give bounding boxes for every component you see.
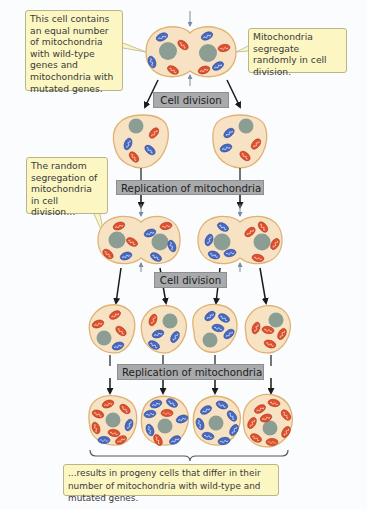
progeny-cell-2 <box>141 396 189 447</box>
parent-cell-dividing <box>146 27 236 77</box>
daughter-cell-right <box>213 115 267 168</box>
callout-text: This cell contains an equal number of mi… <box>30 13 113 94</box>
callout-pointer-right <box>236 46 248 52</box>
callout-equal-mitochondria: This cell contains an equal number of mi… <box>25 10 123 91</box>
division-arrow <box>116 268 121 303</box>
label-text: Cell division <box>160 275 221 286</box>
callout-pointer-left <box>123 43 146 52</box>
callout-progeny-result: ...results in progeny cells that differ … <box>63 464 279 496</box>
callout-text: Mitochondria segregate randomly in cell … <box>253 31 327 77</box>
label-replication-1: Replication of mitochondria <box>116 180 264 195</box>
progeny-cell-1 <box>89 396 137 446</box>
label-text: Replication of mitochondria <box>121 183 261 194</box>
division-arrow <box>260 268 266 303</box>
label-replication-2: Replication of mitochondria <box>117 364 264 380</box>
granddaughter-cell-4 <box>245 306 290 353</box>
progeny-cell-3 <box>193 396 240 445</box>
dividing-cell-right <box>198 216 282 263</box>
grouping-brace <box>90 450 288 461</box>
label-text: Replication of mitochondria <box>122 367 262 378</box>
granddaughter-cell-2 <box>141 306 186 353</box>
daughter-cell-left <box>113 115 168 168</box>
progeny-cell-4 <box>243 394 292 446</box>
callout-random-segregation-division: The random segregation of mitochondria i… <box>26 157 108 214</box>
callout-text: The random segregation of mitochondria i… <box>31 160 97 217</box>
label-cell-division-2: Cell division <box>154 272 227 288</box>
granddaughter-cell-3 <box>193 304 237 352</box>
callout-random-segregation: Mitochondria segregate randomly in cell … <box>248 28 347 73</box>
label-text: Cell division <box>160 95 221 106</box>
dividing-cell-left <box>98 216 180 263</box>
label-cell-division-1: Cell division <box>153 92 229 108</box>
granddaughter-cell-1 <box>89 305 134 353</box>
